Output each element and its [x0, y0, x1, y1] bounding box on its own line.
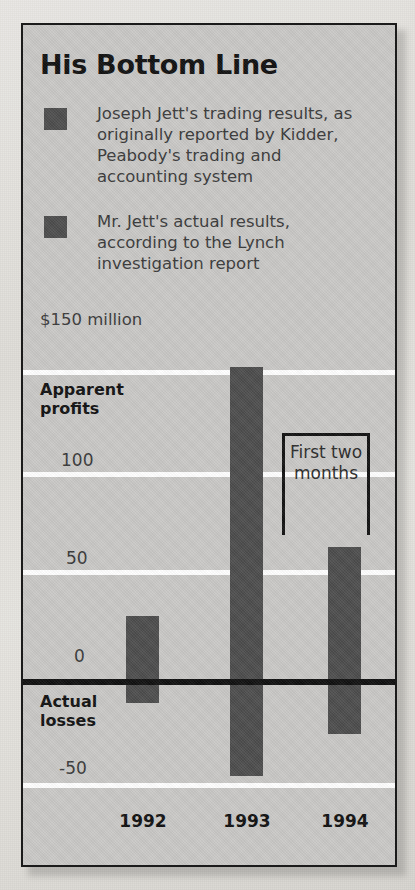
gridline-neg50 — [23, 783, 395, 788]
bar-1993-reported — [230, 367, 263, 679]
bar-1992-actual — [126, 685, 159, 703]
ytick-label-0: 0 — [41, 646, 154, 666]
xtick-label-1992: 1992 — [108, 811, 178, 831]
ytick-label-neg50: -50 — [41, 758, 139, 778]
bar-1993-actual — [230, 685, 263, 776]
plot-area: First two months 100 50 0 -50 Apparent p… — [23, 25, 395, 865]
chart-frame: His Bottom Line Joseph Jett's trading re… — [21, 23, 397, 867]
zero-axis-line — [23, 679, 395, 685]
region-label-apparent-profits: Apparent profits — [40, 380, 160, 418]
gridline-150 — [23, 370, 395, 375]
ytick-label-100: 100 — [41, 450, 141, 470]
ytick-label-50: 50 — [41, 548, 146, 568]
xtick-label-1994: 1994 — [310, 811, 380, 831]
bar-1994-actual — [328, 685, 361, 734]
bar-1994-reported — [328, 547, 361, 679]
xtick-label-1993: 1993 — [212, 811, 282, 831]
region-label-actual-losses: Actual losses — [40, 692, 130, 730]
bracket-label: First two months — [282, 442, 370, 484]
